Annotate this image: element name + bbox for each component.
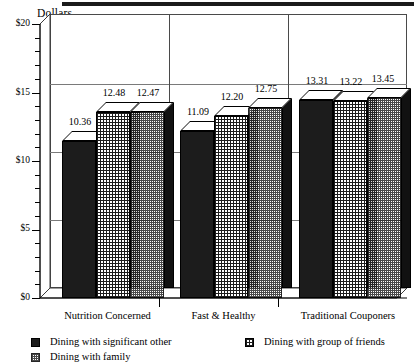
y-tick-minor — [35, 188, 40, 189]
category-label-1: Nutrition Concerned — [45, 310, 170, 322]
bar-front — [96, 112, 130, 298]
legend-label: Dining with family — [50, 351, 131, 362]
legend-item-significant-other[interactable]: Dining with significant other — [31, 336, 172, 348]
y-tick-minor — [35, 65, 40, 66]
y-tick-label: $20 — [4, 19, 30, 29]
legend-swatch-grid-icon — [245, 338, 254, 347]
y-tick-major — [32, 93, 40, 94]
bar-group3-series2[interactable]: 13.22 — [333, 0, 367, 298]
chart-plot-area: $20 $15 $10 $5 $0 10.36 — [0, 0, 415, 362]
y-tick-label: $5 — [4, 224, 30, 234]
y-tick-minor — [35, 202, 40, 203]
bar-group1-series3[interactable]: 12.47 — [130, 0, 164, 298]
bar-group3-series1[interactable]: 13.31 — [299, 0, 333, 298]
bar-group1-series2[interactable]: 12.48 — [96, 0, 130, 298]
bar-side-face — [282, 98, 292, 288]
bar-front — [367, 98, 401, 298]
bar-group1-series1[interactable]: 10.36 — [62, 0, 96, 298]
y-tick-minor — [35, 134, 40, 135]
y-tick-minor — [35, 120, 40, 121]
bar-front — [180, 131, 214, 298]
bar-side-face — [401, 88, 411, 288]
bar-group2-series3[interactable]: 12.75 — [248, 0, 282, 298]
y-tick-label: $15 — [4, 88, 30, 98]
y-tick-minor — [35, 106, 40, 107]
chart-legend: Dining with significant other Dining wit… — [0, 332, 415, 362]
y-tick-label: $10 — [4, 156, 30, 166]
y-tick-minor — [35, 257, 40, 258]
bar-value-label: 13.45 — [361, 74, 405, 84]
bar-value-label: 12.75 — [244, 84, 288, 94]
bar-side-face — [164, 102, 174, 288]
bar-front — [299, 100, 333, 298]
y-tick-minor — [35, 51, 40, 52]
bar-front — [130, 112, 164, 298]
bar-front — [214, 116, 248, 298]
y-tick-major — [32, 161, 40, 162]
y-tick-minor — [35, 38, 40, 39]
y-tick-minor — [35, 271, 40, 272]
bar-group3-series3[interactable]: 13.45 — [367, 0, 401, 298]
bar-group2-series1[interactable]: 11.09 — [180, 0, 214, 298]
y-tick-minor — [35, 175, 40, 176]
bar-front — [62, 141, 96, 298]
bar-value-label: 12.47 — [126, 88, 170, 98]
legend-item-family[interactable]: Dining with family — [31, 351, 131, 362]
y-tick-minor — [35, 147, 40, 148]
y-tick-minor — [35, 284, 40, 285]
legend-swatch-solid-icon — [31, 338, 40, 347]
legend-item-group-of-friends[interactable]: Dining with group of friends — [245, 336, 385, 348]
y-tick-major — [32, 298, 40, 299]
category-label-3: Traditional Couponers — [283, 310, 413, 322]
legend-swatch-dots-icon — [31, 353, 40, 362]
y-tick-label: $0 — [4, 293, 30, 303]
y-tick-major — [32, 24, 40, 25]
category-label-2: Fast & Healthy — [166, 310, 281, 322]
x-tick — [159, 298, 160, 307]
legend-label: Dining with group of friends — [264, 336, 385, 348]
y-tick-major — [32, 230, 40, 231]
bar-front — [333, 101, 367, 298]
bar-front — [248, 108, 282, 298]
x-tick — [278, 298, 279, 307]
y-tick-minor — [35, 216, 40, 217]
y-tick-minor — [35, 243, 40, 244]
legend-label: Dining with significant other — [50, 336, 172, 348]
y-tick-minor — [35, 79, 40, 80]
bar-group2-series2[interactable]: 12.20 — [214, 0, 248, 298]
